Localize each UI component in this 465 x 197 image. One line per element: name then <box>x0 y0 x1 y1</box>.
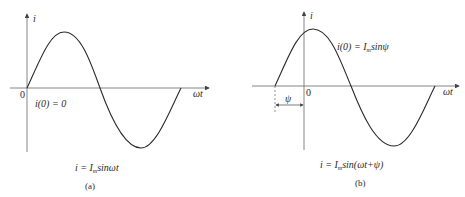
phase-label: ψ <box>285 93 292 104</box>
panel-a: i ωt 0 i(0) = 0 i = Imsinωt (a) <box>10 13 209 191</box>
panel-b: ψ i ωt 0 i(0) = Imsinψ i = Imsin(ωt+ψ) (… <box>252 10 459 188</box>
origin-label: 0 <box>20 89 25 100</box>
sine-curve <box>27 32 181 148</box>
initial-condition: i(0) = Imsinψ <box>337 41 390 53</box>
y-axis-label: i <box>310 10 313 21</box>
x-axis-label: ωt <box>443 86 453 97</box>
sinusoid-diagram: i ωt 0 i(0) = 0 i = Imsinωt (a) ψ i ωt 0… <box>0 0 465 197</box>
x-axis-label: ωt <box>193 88 203 99</box>
equation: i = Imsinωt <box>75 162 119 174</box>
initial-condition: i(0) = 0 <box>35 98 66 110</box>
caption: (a) <box>85 181 95 191</box>
equation: i = Imsin(ωt+ψ) <box>320 159 384 171</box>
y-axis-label: i <box>33 13 36 24</box>
caption: (b) <box>355 178 366 188</box>
origin-label: 0 <box>306 87 311 98</box>
